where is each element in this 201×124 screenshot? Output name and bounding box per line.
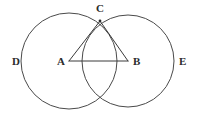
geometry-figure: A B C D E [0,0,201,124]
segment-bc [100,21,128,61]
segment-ac [69,21,100,61]
point-label-c: C [96,3,104,14]
point-label-b: B [133,56,140,67]
vertex-dot-c [99,20,102,23]
figure-canvas [0,0,201,124]
point-label-d: D [12,56,20,67]
point-label-e: E [179,56,186,67]
point-label-a: A [57,56,65,67]
